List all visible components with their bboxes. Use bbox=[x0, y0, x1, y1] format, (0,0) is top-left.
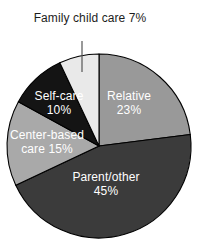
slice-label-family-child-care: Family child care 7% bbox=[28, 11, 152, 25]
slice-label-parent-other-line1: Parent/other bbox=[72, 170, 139, 184]
slice-label-parent-other-line2: 45% bbox=[60, 184, 152, 198]
slice-label-family-child-care-line1: Family child bbox=[34, 11, 99, 25]
slice-label-self-care-line2: 10% bbox=[22, 103, 96, 117]
slice-label-relative-line1: Relative bbox=[107, 89, 151, 103]
slice-label-center-based-care: Center-based care 15% bbox=[2, 128, 92, 156]
slice-label-center-based-care-line1: Center-based bbox=[10, 128, 84, 142]
pie-chart: Family child care 7% Relative 23% Parent… bbox=[0, 0, 200, 251]
slice-label-relative: Relative 23% bbox=[98, 89, 160, 117]
slice-label-family-child-care-line2: care 7% bbox=[102, 11, 147, 25]
slice-label-self-care-line1: Self-care bbox=[35, 89, 84, 103]
pie-chart-graphic bbox=[0, 0, 200, 251]
slice-label-center-based-care-line2: care 15% bbox=[2, 142, 92, 156]
slice-label-relative-line2: 23% bbox=[98, 103, 160, 117]
slice-label-self-care: Self-care 10% bbox=[22, 89, 96, 117]
slice-label-parent-other: Parent/other 45% bbox=[60, 170, 152, 198]
